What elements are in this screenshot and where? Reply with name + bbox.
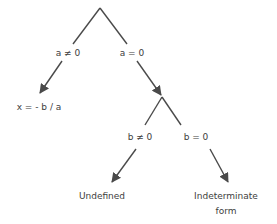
arrow-to-b-node bbox=[137, 61, 161, 95]
edge-label-a-zero: a = 0 bbox=[120, 48, 145, 58]
arrow-to-indeterminate bbox=[210, 149, 228, 182]
b-node-left-branch bbox=[145, 97, 162, 125]
outcome-indeterminate-line2: form bbox=[216, 206, 237, 216]
outcome-indeterminate-line1: Indeterminate bbox=[194, 191, 258, 201]
b-node-right-branch bbox=[162, 97, 181, 125]
root-right-branch bbox=[100, 8, 127, 44]
outcome-undefined: Undefined bbox=[79, 191, 125, 201]
edge-label-b-not-zero: b ≠ 0 bbox=[128, 132, 153, 142]
arrow-to-undefined bbox=[112, 149, 136, 182]
outcome-solution: x = - b / a bbox=[17, 102, 62, 112]
edge-label-b-zero: b = 0 bbox=[184, 132, 209, 142]
root-left-branch bbox=[73, 8, 100, 44]
edge-label-a-not-zero: a ≠ 0 bbox=[56, 48, 81, 58]
decision-tree-diagram: a ≠ 0 a = 0 x = - b / a b ≠ 0 b = 0 Unde… bbox=[0, 0, 277, 224]
arrow-to-solution bbox=[40, 61, 62, 93]
